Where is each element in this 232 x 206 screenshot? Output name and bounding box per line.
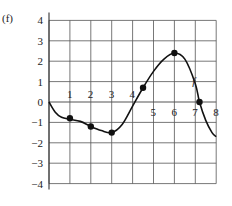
x-tick-label: 3 bbox=[109, 88, 115, 100]
x-tick-label: 6 bbox=[171, 106, 177, 118]
y-tick-label: 2 bbox=[38, 55, 44, 67]
x-tick-label: 1 bbox=[67, 88, 73, 100]
x-axis-ticks: 12345678 bbox=[67, 88, 219, 118]
y-tick-label: 4 bbox=[38, 14, 44, 26]
x-tick-label: 2 bbox=[88, 88, 94, 100]
x-tick-label: 7 bbox=[192, 106, 198, 118]
y-axis-ticks: 43210−1−2−3−4 bbox=[31, 14, 43, 189]
data-point bbox=[140, 85, 146, 91]
y-tick-label: 3 bbox=[38, 35, 44, 47]
y-tick-label: −4 bbox=[31, 178, 43, 190]
data-point bbox=[67, 115, 73, 121]
y-tick-label: 1 bbox=[38, 76, 44, 88]
grid-lines bbox=[49, 12, 216, 189]
x-tick-label: 5 bbox=[151, 106, 157, 118]
data-point bbox=[196, 99, 202, 105]
x-tick-label: 4 bbox=[130, 88, 136, 100]
x-tick-label: 8 bbox=[213, 106, 219, 118]
data-point bbox=[171, 50, 177, 56]
data-point bbox=[109, 129, 115, 135]
y-tick-label: −2 bbox=[31, 137, 43, 149]
data-point bbox=[88, 123, 94, 129]
function-graph: 43210−1−2−3−4 12345678 f bbox=[0, 0, 232, 206]
y-tick-label: −1 bbox=[31, 116, 43, 128]
y-tick-label: −3 bbox=[31, 157, 43, 169]
y-tick-label: 0 bbox=[38, 96, 44, 108]
